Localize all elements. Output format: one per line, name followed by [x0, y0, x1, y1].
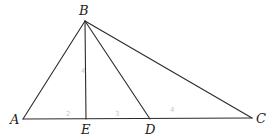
label-point-C: C: [256, 111, 266, 126]
segment-BD: [85, 21, 150, 119]
segments: [23, 21, 252, 119]
label-point-B: B: [78, 3, 89, 18]
label-point-E: E: [80, 122, 91, 137]
segment-AB: [23, 21, 85, 119]
label-point-D: D: [144, 122, 156, 137]
label-point-A: A: [9, 112, 19, 127]
segment-AC: [23, 118, 252, 119]
annotation-DC-length: 4: [170, 106, 175, 114]
annotation-ED-length: 3: [115, 110, 119, 118]
triangle-diagram: 2 3 4 4 A B C D E: [0, 0, 273, 140]
annotation-BE-length: 4: [81, 67, 86, 75]
point-labels: A B C D E: [9, 3, 266, 137]
annotation-AE-length: 2: [66, 110, 70, 118]
segment-BC: [85, 21, 252, 118]
